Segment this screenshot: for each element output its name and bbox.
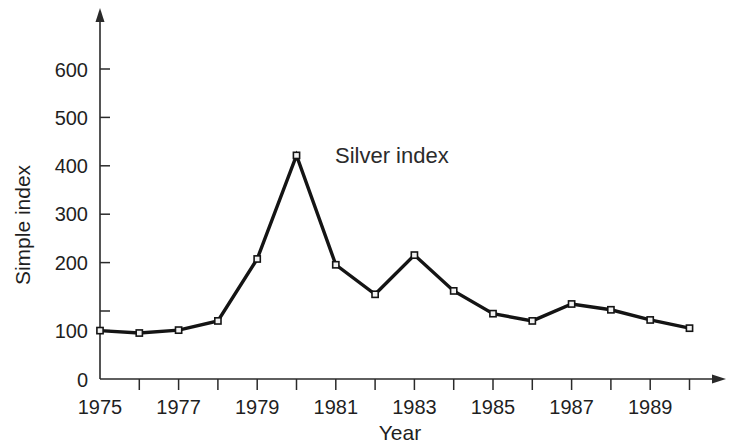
data-point [451,288,457,294]
chart-background [0,0,732,443]
x-tick-label-1977: 1977 [156,396,201,418]
data-point [490,311,496,317]
y-axis-title: Simple index [11,164,34,285]
data-point [529,318,535,324]
data-point [97,328,103,334]
line-chart: 600 500 400 300 200 100 0 Simple index [0,0,732,443]
y-tick-label-300: 300 [55,203,88,225]
y-tick-label-600: 600 [55,59,88,81]
y-tick-label-400: 400 [55,155,88,177]
x-tick-label-1981: 1981 [314,396,359,418]
data-point [569,301,575,307]
x-tick-label-1987: 1987 [549,396,594,418]
x-tick-label-1989: 1989 [628,396,673,418]
y-tick-label-500: 500 [55,107,88,129]
data-point [215,318,221,324]
data-point [176,327,182,333]
data-point [372,291,378,297]
chart-container: 600 500 400 300 200 100 0 Simple index [0,0,732,443]
data-point [136,330,142,336]
y-tick-label-100: 100 [55,320,88,342]
x-tick-label-1983: 1983 [392,396,437,418]
data-point [686,325,692,331]
data-point [254,256,260,262]
x-axis-title: Year [379,421,421,443]
y-tick-label-0: 0 [77,369,88,391]
data-point [333,262,339,268]
data-point [411,252,417,258]
data-point [608,307,614,313]
series-annotation-label: Silver index [335,143,449,168]
data-point [647,317,653,323]
x-tick-label-1975: 1975 [78,396,123,418]
x-tick-label-1979: 1979 [235,396,280,418]
x-tick-label-1985: 1985 [471,396,516,418]
y-tick-label-200: 200 [55,252,88,274]
data-point [293,152,299,158]
